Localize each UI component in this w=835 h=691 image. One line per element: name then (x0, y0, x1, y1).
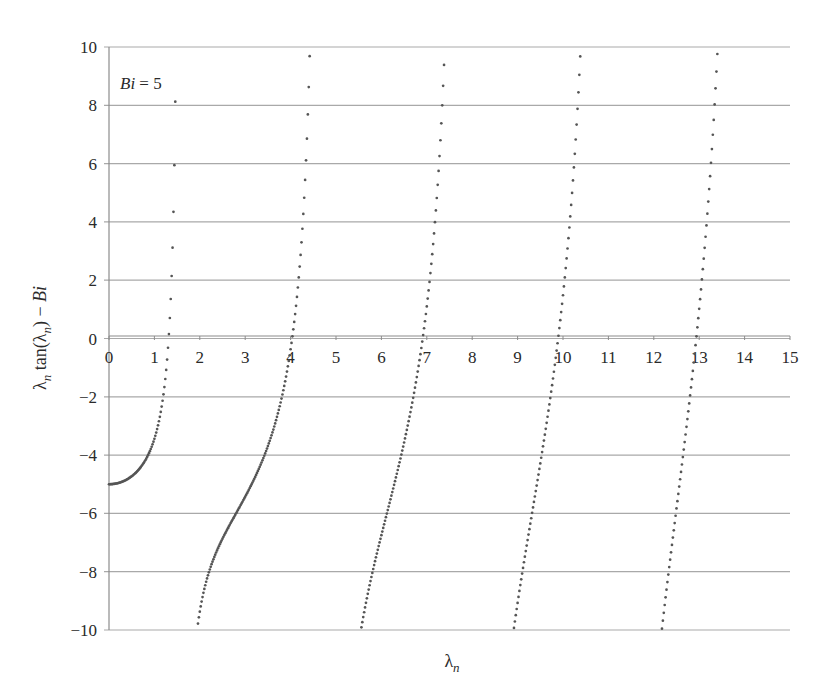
x-tick-label: 5 (332, 348, 341, 367)
data-point (404, 437, 407, 440)
data-point (526, 539, 529, 542)
data-point (550, 390, 553, 393)
y-tick-label: 6 (89, 155, 98, 174)
data-point (680, 471, 683, 474)
data-point (283, 385, 286, 388)
data-point (677, 493, 680, 496)
x-tick-labels: 0123456789101112131415 (105, 348, 799, 367)
data-point (440, 122, 443, 125)
data-point (716, 53, 719, 56)
data-point (687, 410, 690, 413)
data-point (393, 483, 396, 486)
y-tick-label: −8 (79, 563, 97, 582)
data-point (683, 441, 686, 444)
data-point (159, 411, 162, 414)
data-point (553, 363, 556, 366)
data-point (519, 584, 522, 587)
data-point (534, 490, 537, 493)
data-point (171, 246, 174, 249)
data-point (442, 85, 445, 88)
data-point (306, 137, 309, 140)
data-point (523, 561, 526, 564)
data-point (690, 386, 693, 389)
data-point (524, 555, 527, 558)
data-point (296, 296, 299, 299)
data-point (513, 627, 516, 630)
data-point (208, 571, 211, 574)
data-point (554, 356, 557, 359)
data-point (415, 376, 418, 379)
data-point (514, 620, 517, 623)
data-point (270, 434, 273, 437)
data-point (399, 457, 402, 460)
data-point (267, 442, 270, 445)
data-point (293, 321, 296, 324)
data-point (517, 596, 520, 599)
data-point (562, 294, 565, 297)
data-point (541, 451, 544, 454)
data-point (305, 159, 308, 162)
data-point (668, 566, 671, 569)
data-point (299, 254, 302, 257)
data-point (368, 584, 371, 587)
data-point (693, 353, 696, 356)
data-point (532, 506, 535, 509)
data-point (563, 276, 566, 279)
data-point (436, 183, 439, 186)
y-tick-label: −6 (79, 504, 97, 523)
chart-canvas: 1086420−2−4−6−8−10 012345678910111213141… (0, 0, 835, 691)
data-point (266, 447, 269, 450)
data-point (308, 55, 311, 58)
data-point (208, 568, 211, 571)
data-point (297, 276, 300, 279)
data-point (156, 428, 159, 431)
data-point (289, 348, 292, 351)
data-point (389, 498, 392, 501)
data-point (397, 465, 400, 468)
data-point (168, 317, 171, 320)
data-point (703, 247, 706, 250)
y-tick-label: −10 (70, 621, 97, 640)
data-point (711, 133, 714, 136)
data-point (431, 253, 434, 256)
data-point (691, 370, 694, 373)
x-axis-title: λn (444, 651, 459, 675)
data-point (384, 519, 387, 522)
data-point (388, 502, 391, 505)
data-point (678, 485, 681, 488)
data-point (403, 441, 406, 444)
data-point (416, 370, 419, 373)
data-point (418, 359, 421, 362)
data-point (714, 87, 717, 90)
data-point (715, 70, 718, 73)
data-point (164, 378, 167, 381)
data-point (425, 313, 428, 316)
data-point (385, 516, 388, 519)
data-point (701, 268, 704, 271)
data-point (198, 610, 201, 613)
data-point (159, 415, 162, 418)
data-point (713, 103, 716, 106)
data-point (201, 596, 204, 599)
data-point (284, 380, 287, 383)
data-point (669, 558, 672, 561)
data-point (304, 179, 307, 182)
data-point (671, 544, 674, 547)
data-point (172, 210, 175, 213)
data-point (708, 188, 711, 191)
data-point (198, 616, 201, 619)
data-point (538, 468, 541, 471)
data-point (210, 563, 213, 566)
data-point (372, 568, 375, 571)
data-point (691, 378, 694, 381)
x-tick-label: 8 (468, 348, 477, 367)
data-point (665, 588, 668, 591)
data-point (670, 551, 673, 554)
data-point (573, 152, 576, 155)
data-point (694, 344, 697, 347)
data-point (557, 334, 560, 337)
data-point (707, 200, 710, 203)
data-point (704, 235, 707, 238)
data-point (689, 394, 692, 397)
data-point (174, 100, 177, 103)
